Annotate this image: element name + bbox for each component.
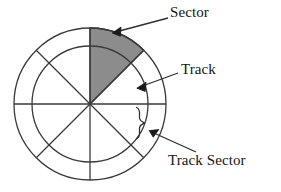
track-arrowhead (137, 82, 146, 91)
track-leader (137, 73, 178, 91)
sector-leader (112, 18, 168, 36)
spoke-diagonal-sw (36, 104, 90, 158)
shaded-sector-wedge (90, 28, 144, 104)
track-sector-label: Track Sector (168, 153, 246, 168)
radial-spoke-group (14, 28, 166, 180)
track-label: Track (181, 62, 216, 77)
disk-platter-diagram: Sector Track Track Sector (0, 0, 281, 192)
track-sector-arrowhead (149, 130, 159, 138)
track-sector-leader-line (155, 134, 196, 153)
spoke-diagonal-nw (36, 50, 90, 104)
sector-label: Sector (170, 5, 209, 20)
spoke-diagonal-se (90, 104, 144, 158)
track-sector-brace (137, 108, 145, 139)
sector-leader-line (118, 18, 169, 32)
